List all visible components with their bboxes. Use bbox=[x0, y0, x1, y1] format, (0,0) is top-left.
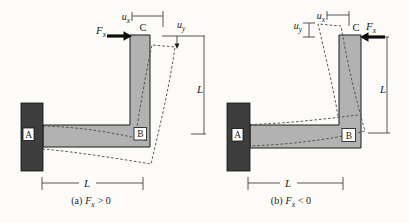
dim-uy-label-b: uy bbox=[294, 20, 303, 34]
uy-arrowhead-a bbox=[175, 43, 180, 49]
dim-length-horizontal-label-b: L bbox=[284, 177, 291, 189]
svg-text:A: A bbox=[25, 130, 32, 140]
point-label-b-a: B bbox=[134, 128, 147, 141]
force-label-b: Fx bbox=[365, 20, 377, 35]
dim-ux-b: ux bbox=[317, 10, 349, 26]
dim-length-vertical-label-a: L bbox=[196, 83, 203, 95]
dim-length-horizontal-b: L bbox=[248, 177, 343, 190]
point-label-c-b: C bbox=[352, 22, 359, 33]
caption-a: (a)Fx> 0 bbox=[71, 195, 111, 209]
svg-text:B: B bbox=[137, 129, 143, 139]
bracket-deflection-diagram: ux uy L L Fx bbox=[0, 0, 409, 223]
dim-uy-label-a: uy bbox=[177, 19, 186, 33]
figure-page: ux uy L L Fx bbox=[0, 0, 409, 223]
panel-a: ux uy L L Fx bbox=[21, 11, 206, 209]
svg-text:A: A bbox=[234, 130, 241, 140]
dim-uy-b: uy bbox=[294, 20, 315, 37]
dim-length-vertical-label-b: L bbox=[379, 83, 386, 95]
dim-ux-label-b: ux bbox=[317, 10, 326, 24]
force-label-a: Fx bbox=[95, 24, 107, 39]
point-label-a-a: A bbox=[23, 128, 34, 141]
svg-text:B: B bbox=[346, 131, 352, 141]
point-label-c-a: C bbox=[139, 22, 146, 33]
point-label-a-b: A bbox=[232, 129, 243, 142]
point-label-b-b: B bbox=[342, 129, 356, 142]
force-arrow-a: Fx bbox=[95, 24, 132, 41]
dim-ux-label-a: ux bbox=[122, 11, 131, 25]
caption-b: (b)Fx< 0 bbox=[271, 195, 311, 209]
dim-length-vertical-a: L bbox=[191, 36, 206, 134]
dim-length-vertical-b: L bbox=[368, 37, 390, 133]
dim-length-horizontal-label-a: L bbox=[83, 177, 90, 189]
dim-uy-a: uy bbox=[162, 19, 205, 49]
panel-b: ux uy L L Fx bbox=[227, 10, 390, 209]
force-arrow-b: Fx bbox=[360, 20, 385, 42]
dim-length-horizontal-a: L bbox=[42, 177, 143, 190]
